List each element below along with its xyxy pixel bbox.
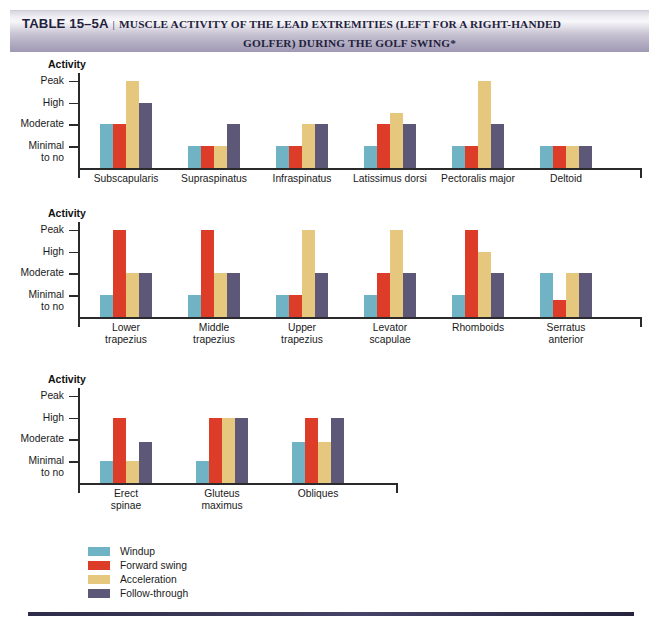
chart-1-ytick-1 <box>69 146 78 148</box>
chart-3-x-axis <box>78 483 398 485</box>
bar <box>100 295 113 317</box>
bar <box>302 124 315 168</box>
bar-group <box>540 221 592 317</box>
legend-label-windup: Windup <box>120 545 155 558</box>
title-separator: | <box>109 18 119 30</box>
chart-1-ytick-label-1: Minimalto no <box>0 140 64 163</box>
chart-3-ytick-label-3: High <box>0 412 64 424</box>
bar <box>403 124 416 168</box>
legend-label-follow-through: Follow-through <box>120 587 188 600</box>
chart-3-ytick-label-1: Minimalto no <box>0 455 64 478</box>
legend-swatch-acceleration <box>88 575 110 584</box>
chart-3-ytick-1 <box>69 461 78 463</box>
legend-label-acceleration: Acceleration <box>120 573 177 586</box>
bar <box>315 124 328 168</box>
chart-1-axis-title: Activity <box>48 58 86 70</box>
bar-group <box>276 72 328 168</box>
bar-group <box>188 72 240 168</box>
bar <box>201 146 214 168</box>
bar <box>364 146 377 168</box>
chart-2-ytick-label-4: Peak <box>0 224 64 236</box>
bar <box>403 273 416 317</box>
legend-swatch-forward-swing <box>88 561 110 570</box>
bar <box>188 295 201 317</box>
footer-rule <box>28 612 634 616</box>
category-label: Serratusanterior <box>506 322 626 345</box>
legend-swatch-windup <box>88 547 110 556</box>
chart-2-ytick-label-2: Moderate <box>0 267 64 279</box>
bar-group <box>100 221 152 317</box>
bar <box>139 273 152 317</box>
bar <box>390 113 403 168</box>
bar <box>364 295 377 317</box>
bar <box>315 273 328 317</box>
bar <box>113 418 126 483</box>
chart-1-ytick-2 <box>69 124 78 126</box>
bar-group <box>364 221 416 317</box>
bar-group <box>196 387 248 483</box>
bar <box>478 252 491 317</box>
bar <box>201 230 214 317</box>
chart-2-axis-title: Activity <box>48 207 86 219</box>
chart-2-y-axis <box>78 222 80 317</box>
bar <box>540 146 553 168</box>
bar-group <box>188 221 240 317</box>
chart-3-axis-endcap-right <box>396 483 398 493</box>
chart-1-ytick-4 <box>69 81 78 83</box>
chart-2-ytick-1 <box>69 295 78 297</box>
bar <box>227 273 240 317</box>
bar-group <box>292 387 344 483</box>
bar <box>214 146 227 168</box>
table-title-text-1: MUSCLE ACTIVITY OF THE LEAD EXTREMITIES … <box>119 18 561 30</box>
bar <box>227 124 240 168</box>
table-title-line-2: GOLFER) DURING THE GOLF SWING* <box>22 34 637 53</box>
bar <box>292 442 305 483</box>
bar <box>579 146 592 168</box>
bar <box>377 124 390 168</box>
chart-2-ytick-3 <box>69 252 78 254</box>
bar <box>465 146 478 168</box>
bar <box>276 146 289 168</box>
bar <box>390 230 403 317</box>
bar <box>139 442 152 483</box>
bar <box>126 81 139 168</box>
chart-3-y-axis <box>78 388 80 483</box>
chart-2-ytick-2 <box>69 273 78 275</box>
bar <box>113 124 126 168</box>
bar <box>566 146 579 168</box>
bar-group <box>100 72 152 168</box>
category-label: Obliques <box>258 488 378 500</box>
legend-label-forward-swing: Forward swing <box>120 559 187 572</box>
chart-1-ytick-label-3: High <box>0 97 64 109</box>
chart-1-ytick-3 <box>69 103 78 105</box>
bar <box>196 461 209 483</box>
chart-3-ytick-3 <box>69 418 78 420</box>
chart-2-x-axis <box>78 317 642 319</box>
bar <box>318 442 331 483</box>
chart-2-ytick-label-3: High <box>0 246 64 258</box>
bar <box>566 273 579 317</box>
bar <box>302 230 315 317</box>
bar <box>235 418 248 483</box>
bar <box>126 273 139 317</box>
bar <box>289 146 302 168</box>
chart-2-ytick-label-1: Minimalto no <box>0 289 64 312</box>
bar <box>222 418 235 483</box>
bar <box>214 273 227 317</box>
bar <box>209 418 222 483</box>
bar <box>553 146 566 168</box>
chart-3-ytick-label-4: Peak <box>0 390 64 402</box>
bar <box>276 295 289 317</box>
chart-2-ytick-4 <box>69 230 78 232</box>
bar-group <box>452 221 504 317</box>
bar <box>139 103 152 168</box>
chart-3-ytick-2 <box>69 439 78 441</box>
bar <box>491 124 504 168</box>
bar <box>465 230 478 317</box>
bar <box>452 295 465 317</box>
bar <box>289 295 302 317</box>
bar <box>377 273 390 317</box>
bar <box>540 273 553 317</box>
bar <box>478 81 491 168</box>
bar-group <box>540 72 592 168</box>
